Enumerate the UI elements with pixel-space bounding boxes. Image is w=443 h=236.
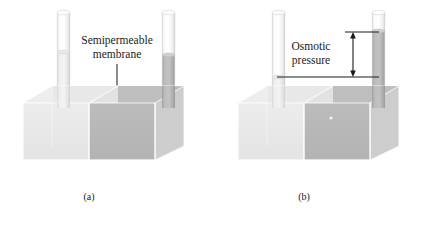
figure-canvas: Semipermeable membrane (a): [0, 0, 443, 236]
osmotic-pressure-label-line1: Osmotic: [292, 40, 331, 52]
membrane-label-line1: Semipermeable: [81, 34, 153, 47]
left-tube-mouth: [57, 10, 70, 15]
left-tube-mouth: [272, 10, 285, 15]
box-b-front-solvent: [238, 103, 304, 160]
right-tube-in-box: [162, 86, 175, 108]
right-tube-mouth: [372, 10, 385, 15]
left-tube-in-box: [272, 86, 285, 108]
left-tube-meniscus: [57, 50, 70, 54]
panel-a-caption: (a): [83, 191, 94, 203]
osmosis-figure: Semipermeable membrane (a): [0, 0, 443, 236]
solution-highlight-dot: [329, 116, 332, 119]
box-a-front-solution: [89, 103, 155, 160]
right-tube-meniscus: [162, 53, 175, 57]
right-tube-in-box: [372, 86, 385, 108]
panel-b-caption: (b): [298, 191, 310, 203]
membrane-label-line2: membrane: [93, 48, 142, 60]
left-tube-in-box: [57, 86, 70, 108]
box-b-front-solution: [304, 103, 370, 160]
box-a-front-solvent: [23, 103, 89, 160]
right-tube-mouth: [162, 10, 175, 15]
osmotic-pressure-label-line2: pressure: [292, 54, 330, 67]
